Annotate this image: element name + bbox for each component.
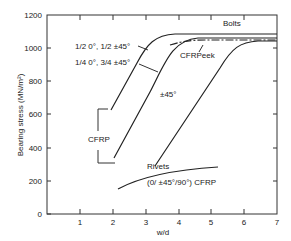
bearing-stress-chart: 0 200 400 600 800 1000 1200 Bearing stre… — [0, 0, 291, 241]
x-tick-label: 7 — [275, 218, 280, 227]
x-tick-label: 3 — [144, 218, 149, 227]
cfrpeek-label: CFRPeek — [180, 51, 216, 60]
label-half-0-half-45: 1/2 0°, 1/2 ±45° — [75, 42, 130, 51]
x-tick-label: 2 — [111, 218, 116, 227]
x-tick-label: 6 — [242, 218, 247, 227]
x-axis-label: w/d — [156, 228, 169, 237]
y-tick-label: 1000 — [24, 44, 42, 53]
x-tick-label: 5 — [209, 218, 214, 227]
y-tick-label: 600 — [29, 110, 43, 119]
x-tick-label: 1 — [78, 218, 83, 227]
series-pm45 — [155, 41, 277, 166]
y-axis: 0 200 400 600 800 1000 1200 Bearing stre… — [16, 11, 277, 219]
pm45-label: ±45° — [160, 90, 177, 99]
y-tick-label: 800 — [29, 77, 43, 86]
y-axis-label: Bearing stress (MN/m²) — [16, 73, 25, 156]
rivets-sub-label: (0/ ±45°/90°) CFRP — [147, 178, 216, 187]
y-tick-label: 400 — [29, 144, 43, 153]
label-quarter-0-threequarter-45: 1/4 0°, 3/4 ±45° — [75, 58, 130, 67]
y-tick-label: 200 — [29, 177, 43, 186]
series-half-0-half-45 — [111, 34, 277, 110]
cfrp-label: CFRP — [88, 135, 110, 144]
x-tick-label: 4 — [177, 218, 182, 227]
bolts-label: Bolts — [223, 19, 241, 28]
y-tick-label: 0 — [38, 210, 43, 219]
rivets-label: Rivets — [147, 162, 169, 171]
y-tick-label: 1200 — [24, 11, 42, 20]
leader-line — [139, 64, 158, 72]
